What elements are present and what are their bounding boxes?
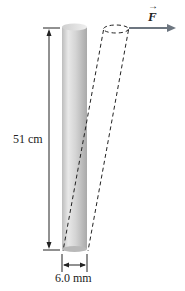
- length-dimension: [43, 28, 60, 250]
- force-label: → F: [148, 9, 157, 25]
- force-arrow: [129, 24, 176, 32]
- diameter-dimension: [62, 254, 87, 272]
- diameter-label: 6.0 mm: [55, 271, 92, 286]
- vector-arrow-icon: →: [148, 0, 158, 11]
- length-label: 51 cm: [13, 132, 43, 147]
- force-symbol: F: [148, 9, 157, 24]
- solid-rod: [62, 24, 87, 253]
